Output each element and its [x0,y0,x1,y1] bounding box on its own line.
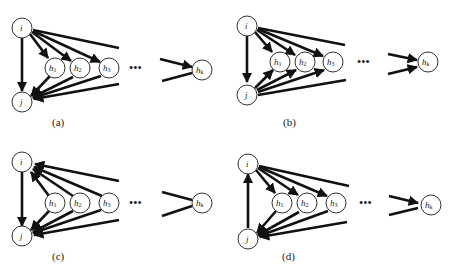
node-h1: h1 [45,58,65,78]
caption-c: (c) [52,250,64,262]
panel-c: i j h1 h2 h3 ••• hk (c) [0,136,225,272]
panel-d: i j h1 h2 h3 ••• hk (d) [225,136,449,272]
caption-b: (b) [283,116,296,128]
node-j: j [12,92,32,112]
node-h1: h1 [270,52,290,72]
node-hk: hk [192,60,212,80]
ellipsis: ••• [129,61,142,75]
svg-text:j: j [245,234,249,244]
node-i: i [12,152,32,172]
ellipsis: ••• [357,55,370,69]
panel-b: i j h1 h2 h3 ••• hk (b) [225,0,449,136]
graph-b: i j h1 h2 h3 ••• hk [225,0,449,136]
node-h2: h2 [70,58,90,78]
graph-c: i j h1 h2 h3 ••• hk [0,136,225,272]
node-h2: h2 [70,193,90,213]
panel-a: i j h1 h2 h3 ••• hk (a) [0,0,225,136]
node-hk: hk [421,195,441,215]
node-h1: h1 [45,193,65,213]
node-i: i [237,16,257,36]
node-j: j [238,229,258,249]
node-h3: h3 [99,193,119,213]
svg-text:j: j [244,90,248,100]
graph-d: i j h1 h2 h3 ••• hk [225,136,449,272]
node-h3: h3 [326,193,346,213]
node-i: i [12,18,32,38]
caption-a: (a) [52,116,64,128]
node-h1: h1 [272,193,292,213]
node-h2: h2 [295,52,315,72]
graph-a: i j h1 h2 h3 ••• hk [0,0,225,136]
node-h3: h3 [99,58,119,78]
node-hk: hk [192,193,212,213]
node-i: i [238,154,258,174]
svg-text:j: j [19,97,23,107]
node-j: j [12,226,32,246]
node-hk: hk [418,52,438,72]
ellipsis: ••• [359,196,372,210]
svg-text:j: j [19,231,23,241]
caption-d: (d) [282,250,295,262]
ellipsis: ••• [129,196,142,210]
node-h2: h2 [297,193,317,213]
node-h3: h3 [323,52,343,72]
node-j: j [237,85,257,105]
